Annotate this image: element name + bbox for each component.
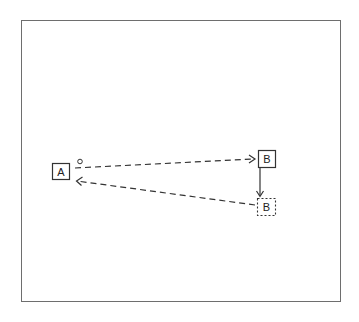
edge-b-dotted-to-a — [77, 177, 256, 205]
node-a: A — [53, 164, 70, 180]
edge-a-to-b — [75, 155, 255, 168]
node-b-label: B — [263, 153, 270, 165]
node-b-dotted-label: B — [263, 201, 270, 213]
node-a-label: A — [57, 166, 65, 178]
circle-marker-icon — [78, 159, 83, 164]
edge-b-to-b-dotted — [257, 168, 264, 197]
node-b-dotted: B — [258, 199, 276, 216]
diagram-canvas: A B B — [0, 0, 359, 322]
node-b: B — [259, 151, 276, 168]
